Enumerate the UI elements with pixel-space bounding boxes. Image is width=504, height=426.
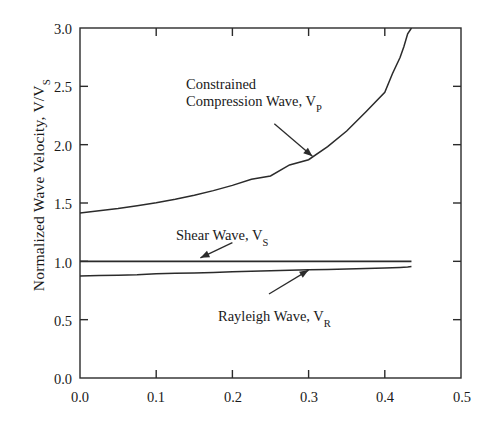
rayleigh-wave-annotation-arrow-head [299,270,309,278]
curve-0 [80,28,411,213]
plot-canvas [0,0,504,426]
figure-container: Normalized Wave Velocity, V/VS 3.0 2.5 2… [0,0,504,426]
shear-wave-annotation-arrow-head [200,251,210,258]
plot-frame [80,28,461,378]
data-curves [80,28,411,276]
annotation-arrows [200,124,312,294]
axis-ticks [80,28,461,378]
curve-2 [80,267,411,276]
